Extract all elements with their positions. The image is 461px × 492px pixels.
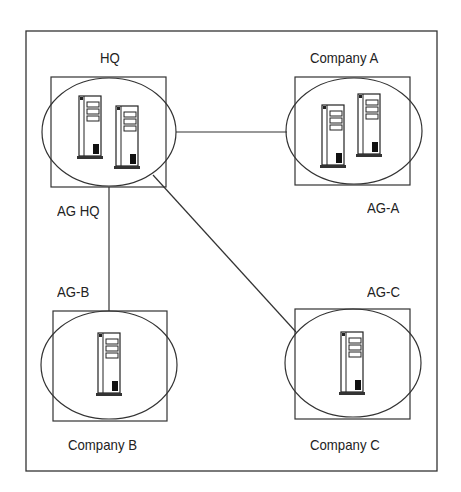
label-company-b: Company B — [68, 436, 137, 453]
label-ag-a: AG-A — [367, 199, 399, 216]
node-company-c — [285, 309, 421, 419]
label-ag-hq: AG HQ — [57, 202, 100, 219]
node-company-a — [286, 77, 422, 185]
label-ag-b: AG-B — [57, 283, 89, 300]
label-hq: HQ — [100, 49, 120, 66]
label-ag-c: AG-C — [367, 283, 400, 300]
server-tower-icon — [339, 332, 365, 395]
network-diagram — [0, 0, 461, 492]
label-company-a: Company A — [310, 49, 378, 66]
server-tower-icon — [320, 105, 346, 168]
server-tower-icon — [356, 94, 382, 157]
node-hq — [42, 77, 176, 187]
server-tower-icon — [77, 96, 103, 159]
link-hq-company-c — [153, 175, 296, 332]
node-company-b — [41, 311, 177, 421]
label-company-c: Company C — [310, 436, 380, 453]
server-tower-icon — [96, 333, 122, 396]
server-tower-icon — [114, 106, 140, 169]
